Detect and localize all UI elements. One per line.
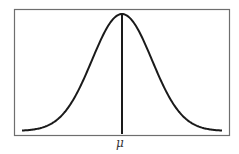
mean-label: μ xyxy=(116,136,124,150)
bell-curve-chart xyxy=(0,0,239,154)
